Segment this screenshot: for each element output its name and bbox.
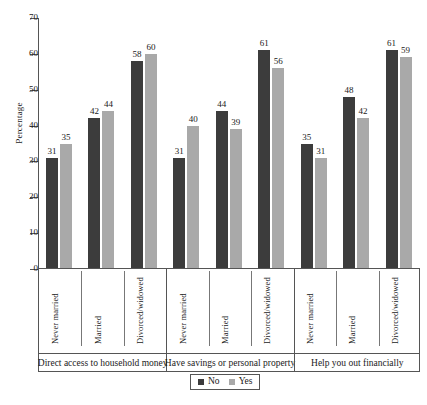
category-label: Never married xyxy=(305,293,315,344)
legend-swatch-no xyxy=(198,379,204,385)
bar-no xyxy=(46,158,58,269)
bar-no xyxy=(88,118,100,269)
bar-pair: 3140 xyxy=(166,18,208,269)
y-axis-tick-label: 60 xyxy=(12,49,38,58)
bar-value-label: 35 xyxy=(295,133,319,142)
bar-pair: 6156 xyxy=(251,18,293,269)
bar-value-label: 44 xyxy=(96,100,120,109)
bar-group: 313542445860 xyxy=(39,18,166,269)
bar-value-label: 61 xyxy=(252,39,276,48)
category-label: Married xyxy=(220,316,230,344)
bar-yes xyxy=(315,158,327,269)
bar-no xyxy=(343,97,355,269)
bar-yes xyxy=(357,118,369,269)
category-label: Never married xyxy=(50,293,60,344)
bar-value-label: 59 xyxy=(394,46,418,55)
bar-no xyxy=(216,111,228,269)
chart-legend: NoYes xyxy=(190,374,260,390)
legend-swatch-yes xyxy=(229,379,235,385)
bar-pair: 4842 xyxy=(336,18,378,269)
bar-value-label: 44 xyxy=(210,100,234,109)
bar-group: 314044396156 xyxy=(166,18,293,269)
group-label: Direct access to household money xyxy=(39,354,166,372)
bar-group: 353148426159 xyxy=(294,18,421,269)
plot-area: 313542445860314044396156353148426159 xyxy=(39,18,420,269)
bar-no xyxy=(258,50,270,269)
category-label: Never married xyxy=(178,293,188,344)
y-axis-tick-label: 10 xyxy=(12,228,38,237)
bar-value-label: 60 xyxy=(139,43,163,52)
category-cell: Never married xyxy=(39,269,81,354)
legend-label: No xyxy=(208,377,220,387)
category-label: Divorced/widowed xyxy=(262,277,272,344)
bar-pair: 4439 xyxy=(209,18,251,269)
category-cell: Divorced/widowed xyxy=(251,269,293,354)
bar-pair: 6159 xyxy=(379,18,421,269)
bar-pair: 3531 xyxy=(294,18,336,269)
category-label: Divorced/widowed xyxy=(135,277,145,344)
y-axis-tick-label: 40 xyxy=(12,121,38,130)
y-axis-tick-label: 0 xyxy=(12,264,38,273)
bar-no xyxy=(386,50,398,269)
bar-yes xyxy=(400,57,412,269)
y-axis-tick-label: 30 xyxy=(12,156,38,165)
bar-yes xyxy=(145,54,157,269)
bar-value-label: 42 xyxy=(351,107,375,116)
y-axis-tick-label: 50 xyxy=(12,85,38,94)
y-axis-tick-label: 20 xyxy=(12,192,38,201)
bar-chart: Percentage 010203040506070 3135424458603… xyxy=(0,0,427,405)
legend-item: Yes xyxy=(229,377,253,387)
bar-no xyxy=(131,61,143,269)
category-cell: Never married xyxy=(294,269,336,354)
category-cell: Divorced/widowed xyxy=(379,269,421,354)
bar-value-label: 48 xyxy=(337,86,361,95)
group-label: Help you out financially xyxy=(294,354,421,372)
bar-value-label: 35 xyxy=(54,133,78,142)
bar-no xyxy=(301,144,313,270)
bar-yes xyxy=(230,129,242,269)
bar-value-label: 40 xyxy=(181,115,205,124)
bar-yes xyxy=(272,68,284,269)
bar-value-label: 56 xyxy=(266,57,290,66)
bar-pair: 3135 xyxy=(39,18,81,269)
bar-yes xyxy=(60,144,72,270)
category-label: Divorced/widowed xyxy=(390,277,400,344)
bar-yes xyxy=(187,126,199,269)
category-cell: Divorced/widowed xyxy=(124,269,166,354)
category-cell: Never married xyxy=(166,269,208,354)
group-label: Have savings or personal property xyxy=(166,354,293,372)
legend-label: Yes xyxy=(239,377,253,387)
category-cell: Married xyxy=(81,269,123,354)
bar-no xyxy=(173,158,185,269)
category-label-table: Never marriedMarriedDivorced/widowedNeve… xyxy=(38,269,420,354)
category-label: Married xyxy=(93,316,103,344)
group-label-row: Direct access to household moneyHave sav… xyxy=(38,354,420,372)
bar-value-label: 39 xyxy=(224,118,248,127)
y-axis-tick-label: 70 xyxy=(12,13,38,22)
bar-pair: 4244 xyxy=(81,18,123,269)
legend-item: No xyxy=(198,377,220,387)
category-cell: Married xyxy=(209,269,251,354)
bar-pair: 5860 xyxy=(124,18,166,269)
category-label: Married xyxy=(347,316,357,344)
bar-value-label: 31 xyxy=(309,147,333,156)
category-cell: Married xyxy=(336,269,378,354)
bar-yes xyxy=(102,111,114,269)
